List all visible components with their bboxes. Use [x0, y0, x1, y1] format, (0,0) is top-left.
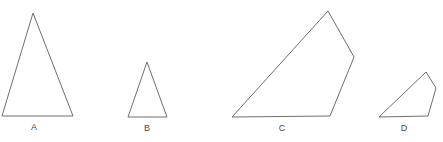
- shapes-figure: A B C D: [0, 0, 443, 142]
- shape-d-label: D: [401, 123, 408, 133]
- shape-group-b[interactable]: B: [128, 62, 167, 133]
- shape-a-outline[interactable]: [2, 13, 73, 116]
- shape-d-outline[interactable]: [379, 72, 436, 117]
- shape-b-outline[interactable]: [128, 62, 167, 117]
- shape-c-label: C: [279, 123, 286, 133]
- shape-group-d[interactable]: D: [379, 72, 436, 133]
- shape-c-outline[interactable]: [232, 11, 354, 117]
- shape-a-label: A: [31, 122, 37, 132]
- shape-group-c[interactable]: C: [232, 11, 354, 133]
- shape-group-a[interactable]: A: [2, 13, 73, 132]
- shapes-canvas: A B C D: [0, 0, 443, 142]
- shape-b-label: B: [144, 123, 150, 133]
